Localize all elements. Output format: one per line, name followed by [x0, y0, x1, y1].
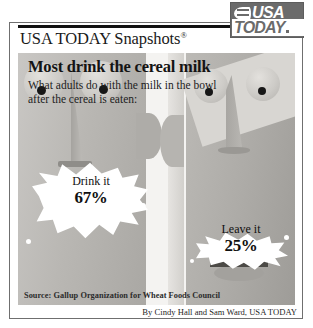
logo-today-text: TODAY [234, 20, 285, 36]
callout-drink-it-value: 67% [54, 188, 128, 207]
ear-right-face [160, 115, 184, 167]
headline: Most drink the cereal milk [28, 58, 268, 75]
source-line: Source: Gallup Organization for Wheat Fo… [24, 291, 220, 300]
milk-droplet-left-2 [26, 239, 31, 244]
subhead-line-2: after the cereal is eaten: [28, 93, 268, 107]
milk-droplet-left-1 [140, 203, 146, 209]
usa-today-snapshot: USA TODAY Snapshots® USA TODAY [0, 0, 313, 328]
globe-swoosh-icon [234, 7, 251, 20]
registered-trademark-icon: ® [180, 30, 186, 40]
ear-left-face [136, 113, 162, 159]
nose-right-base [218, 147, 250, 154]
logo-period-icon [286, 30, 289, 33]
masthead-title: USA TODAY Snapshots® [20, 29, 187, 49]
callout-leave-it-label: Leave it [208, 223, 274, 236]
milk-droplet-right-2 [190, 259, 194, 263]
callout-leave-it-value: 25% [208, 236, 274, 255]
snapshot-panel: Most drink the cereal milk What adults d… [18, 53, 295, 305]
usa-today-logo: USA TODAY [230, 2, 304, 38]
logo-bottom-row: TODAY [232, 19, 304, 36]
masthead-title-text: USA TODAY Snapshots [20, 29, 180, 48]
callout-drink-it: Drink it 67% [54, 175, 128, 207]
subhead-line-1: What adults do with the milk in the bowl [28, 79, 268, 93]
credit-line: By Cindy Hall and Sam Ward, USA TODAY [142, 307, 297, 317]
milk-droplet-right-1 [284, 235, 289, 240]
subhead: What adults do with the milk in the bowl… [28, 79, 268, 106]
headline-block: Most drink the cereal milk What adults d… [28, 58, 268, 106]
callout-leave-it: Leave it 25% [208, 223, 274, 255]
callout-drink-it-label: Drink it [54, 175, 128, 188]
